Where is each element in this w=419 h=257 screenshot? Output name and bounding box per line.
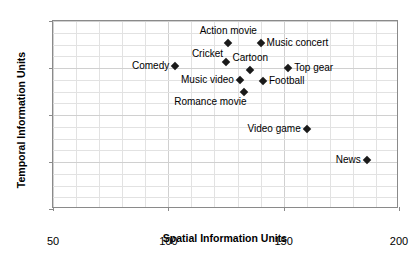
gridline-vertical [238,21,239,207]
x-axis-tick [53,207,54,211]
gridline-horizontal [53,127,397,128]
y-axis-tick [49,115,53,116]
y-axis-title: Temporal Information Units [15,26,27,214]
gridline-vertical [99,21,100,207]
gridline-horizontal [53,197,397,198]
data-point-label: Music video [181,75,234,85]
gridline-vertical [330,21,331,207]
plot-area: Action movieMusic concertCricketComedyTo… [52,20,398,208]
gridline-vertical [168,21,169,207]
data-point-label: Cartoon [232,53,268,63]
data-point-label: Video game [248,124,301,134]
x-axis-tick [168,207,169,211]
gridline-vertical [353,21,354,207]
data-point-label: Cricket [192,49,223,59]
gridline-vertical [376,21,377,207]
gridline-horizontal [53,92,397,93]
y-axis-tick [49,21,53,22]
gridline-vertical [145,21,146,207]
scatter-chart: Action movieMusic concertCricketComedyTo… [0,0,419,257]
gridline-horizontal [53,139,397,140]
gridline-vertical [284,21,285,207]
gridlines [53,21,397,207]
data-point-label: Football [269,76,305,86]
data-point-label: Action movie [200,26,257,36]
data-point-label: Top gear [294,63,333,73]
gridline-vertical [53,21,54,207]
gridline-horizontal [53,150,397,151]
gridline-horizontal [53,186,397,187]
x-axis-tick [399,207,400,211]
gridline-horizontal [53,21,397,22]
data-point-label: Music concert [267,38,329,48]
x-axis-title: Spatial Information Units [52,232,398,244]
data-point-label: News [336,155,361,165]
gridline-horizontal [53,174,397,175]
data-point-label: Comedy [132,61,169,71]
gridline-vertical [76,21,77,207]
gridline-horizontal [53,115,397,116]
y-axis-tick [49,162,53,163]
data-point-label: Romance movie [174,97,246,107]
gridline-vertical [122,21,123,207]
y-axis-tick [49,68,53,69]
x-axis-tick [284,207,285,211]
gridline-vertical [307,21,308,207]
gridline-horizontal [53,68,397,69]
gridline-vertical [261,21,262,207]
